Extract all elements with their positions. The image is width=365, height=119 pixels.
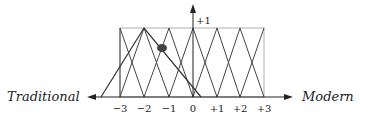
marker-point (157, 44, 167, 52)
highlight-triangle (101, 28, 201, 97)
tick-label: +2 (233, 103, 248, 114)
fuzzy-membership-diagram: Traditional Modern +1 −3 −2 −1 0 +1 +2 +… (0, 0, 365, 119)
right-arrow-icon (284, 94, 293, 100)
up-arrow-icon (190, 4, 196, 13)
tick-label: −1 (162, 103, 177, 114)
left-arrow-icon (87, 94, 96, 100)
y-max-label: +1 (196, 15, 211, 26)
tick-labels: −3 −2 −1 0 +1 +2 +3 (113, 103, 272, 114)
left-pole-label: Traditional (7, 89, 80, 104)
tick-label: −2 (137, 103, 152, 114)
tick-label: +3 (257, 103, 272, 114)
tick-label: +1 (210, 103, 225, 114)
tick-label: −3 (113, 103, 128, 114)
right-pole-label: Modern (301, 89, 354, 104)
tick-label: 0 (190, 103, 196, 114)
